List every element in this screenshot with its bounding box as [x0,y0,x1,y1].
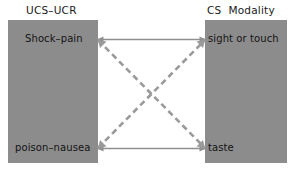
arrowhead-icon [98,40,107,48]
link-bottom-horizontal [97,146,206,152]
node-label-shock-pain: Shock–pain [25,33,83,44]
node-label-taste: taste [208,142,234,153]
link-top-horizontal [97,37,206,43]
node-label-sight-or-touch: sight or touch [208,33,279,44]
diagram-canvas: UCS–UCR CS Modality Shock–pain poison– [0,0,294,177]
arrowhead-icon [98,140,107,148]
node-label-poison-nausea: poison–nausea [15,142,91,153]
